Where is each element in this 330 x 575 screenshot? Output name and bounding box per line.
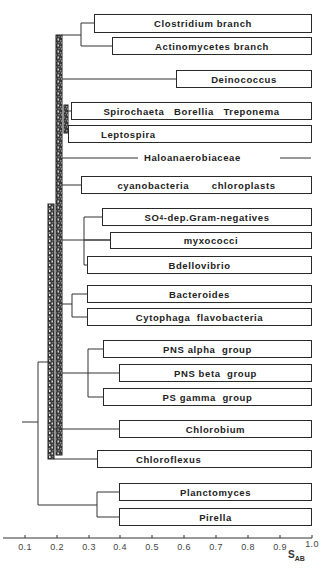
tick-label-0-1: 0.1 (18, 542, 31, 552)
taxon-leptospira: Leptospira (68, 125, 312, 143)
taxon-actinomycetes: Actinomycetes branch (112, 37, 312, 55)
taxon-bdellovibrio: Bdellovibrio (87, 256, 312, 274)
taxon-haloanaerobiaceae: Haloanaerobiaceae (141, 152, 244, 163)
tick-label-0-7: 0.7 (209, 542, 222, 552)
grouping-bar-lower (48, 204, 54, 459)
tick-label-0-3: 0.3 (82, 542, 95, 552)
taxon-ps-gamma: PS gamma group (103, 388, 312, 406)
axis-title-subscript: AB (295, 555, 305, 562)
taxon-spirochaeta: Spirochaeta Borellia Treponema (71, 102, 312, 120)
tick-label-0-4: 0.4 (113, 542, 126, 552)
taxon-cytophaga: Cytophaga flavobacteria (87, 308, 312, 326)
tick-label-0-5: 0.5 (145, 542, 158, 552)
tick-label-0-8: 0.8 (241, 542, 254, 552)
tick-label-0-9: 0.9 (273, 542, 286, 552)
tick-label-0-6: 0.6 (177, 542, 190, 552)
taxon-chloroflexus: Chloroflexus (97, 450, 312, 468)
taxon-pirella: Pirella (119, 508, 312, 526)
x-axis-title: SAB (288, 549, 305, 562)
taxon-pns-alpha: PNS alpha group (103, 340, 312, 358)
taxon-chlorobium: Chlorobium (119, 420, 312, 438)
tick-label-0-2: 0.2 (50, 542, 63, 552)
so4-label-rest: -dep.Gram-negatives (164, 212, 270, 223)
grouping-bar-upper (56, 35, 62, 455)
taxon-so4-dep-gram-negatives: SO4-dep.Gram-negatives (102, 208, 312, 226)
axis-title-main: S (288, 549, 295, 560)
taxon-pns-beta: PNS beta group (119, 364, 312, 382)
taxon-myxococci: myxococci (110, 232, 312, 249)
taxon-planctomyces: Planctomyces (119, 483, 312, 501)
taxon-bacteroides: Bacteroides (87, 285, 312, 303)
taxon-cyanobacteria: cyanobacteria chloroplasts (81, 176, 312, 194)
tick-label-1-0: 1.0 (305, 539, 318, 549)
so4-label-main: SO (144, 212, 159, 223)
taxon-clostridium: Clostridium branch (94, 14, 312, 33)
taxon-deinococcus: Deinococcus (176, 70, 312, 88)
